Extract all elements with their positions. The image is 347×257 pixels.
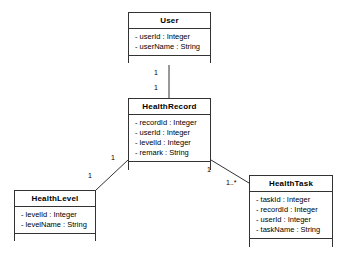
attribute-row: - remark : String	[129, 148, 210, 158]
class-attributes-health-task: - taskId : Integer - recordId : Integer …	[250, 192, 332, 239]
multiplicity-label: 1..*	[226, 179, 237, 187]
attribute-row: - taskName : String	[250, 225, 332, 235]
multiplicity-label: 1	[111, 154, 115, 162]
attribute-row: - userId : Integer	[129, 128, 210, 138]
class-box-user[interactable]: User - userId : Integer - userName : Str…	[128, 12, 211, 63]
class-name-health-task: HealthTask	[250, 176, 332, 192]
uml-class-diagram: User - userId : Integer - userName : Str…	[0, 0, 347, 257]
association-line	[96, 160, 128, 190]
class-name-health-level: HealthLevel	[15, 191, 95, 207]
attribute-row: - userId : Integer	[250, 215, 332, 225]
class-methods-user	[129, 56, 210, 65]
attribute-row: - recordId : Integer	[129, 118, 210, 128]
attribute-row: - levelId : Integer	[129, 138, 210, 148]
class-box-health-task[interactable]: HealthTask - taskId : Integer - recordId…	[249, 175, 333, 247]
class-attributes-user: - userId : Integer - userName : String	[129, 29, 210, 56]
attribute-row: - recordId : Integer	[250, 205, 332, 215]
attribute-row: - levelId : Integer	[15, 210, 95, 220]
multiplicity-label: 1	[154, 84, 158, 92]
class-methods-health-level	[15, 234, 95, 243]
class-attributes-health-record: - recordId : Integer - userId : Integer …	[129, 115, 210, 162]
class-methods-health-record	[129, 162, 210, 171]
multiplicity-label: 1	[154, 69, 158, 77]
attribute-row: - userId : Integer	[129, 32, 210, 42]
class-box-health-record[interactable]: HealthRecord - recordId : Integer - user…	[128, 98, 211, 170]
attribute-row: - levelName : String	[15, 220, 95, 230]
class-name-user: User	[129, 13, 210, 29]
attribute-row: - taskId : Integer	[250, 195, 332, 205]
attribute-row: - userName : String	[129, 42, 210, 52]
multiplicity-label: 1	[88, 172, 92, 180]
class-name-health-record: HealthRecord	[129, 99, 210, 115]
multiplicity-label: 1	[207, 166, 211, 174]
class-attributes-health-level: - levelId : Integer - levelName : String	[15, 207, 95, 234]
class-methods-health-task	[250, 239, 332, 248]
class-box-health-level[interactable]: HealthLevel - levelId : Integer - levelN…	[14, 190, 96, 241]
